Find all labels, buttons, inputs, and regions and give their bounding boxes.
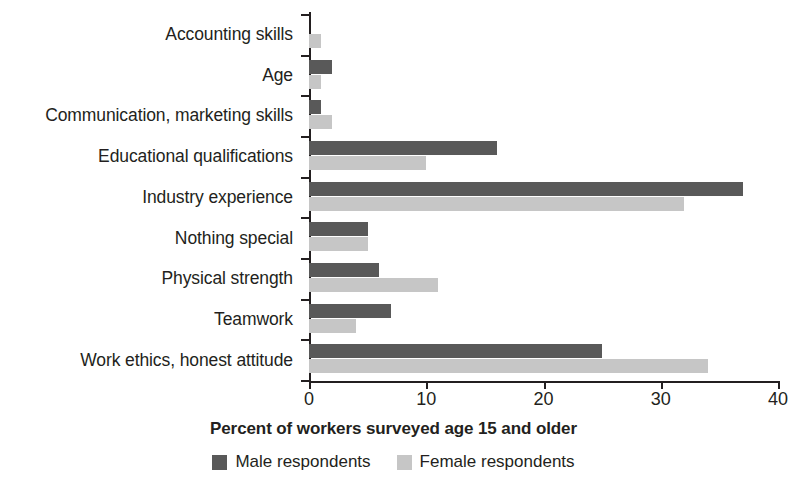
- legend-swatch-male: [212, 455, 227, 470]
- bar-female: [309, 75, 321, 89]
- bar-group: [309, 55, 779, 96]
- bar-female: [309, 319, 356, 333]
- x-axis-tick-label: 0: [304, 389, 314, 410]
- x-axis-title: Percent of workers surveyed age 15 and o…: [0, 419, 787, 439]
- bar-group: [309, 339, 779, 380]
- plot-area: Accounting skills Age Communication, mar…: [0, 0, 787, 400]
- x-axis-tick: [778, 381, 780, 389]
- bar-group: [309, 258, 779, 299]
- x-axis-tick: [309, 381, 311, 389]
- bar-male: [309, 100, 321, 114]
- x-axis-tick-label: 40: [768, 389, 788, 410]
- bar-female: [309, 278, 438, 292]
- bar-female: [309, 34, 321, 48]
- x-axis-tick: [426, 381, 428, 389]
- bar-female: [309, 115, 332, 129]
- category-label: Physical strength: [0, 258, 302, 299]
- category-label: Teamwork: [0, 299, 302, 340]
- legend: Male respondents Female respondents: [0, 452, 787, 472]
- x-axis-tick: [661, 381, 663, 389]
- bar-male: [309, 182, 743, 196]
- bar-female: [309, 197, 684, 211]
- bar-group: [309, 95, 779, 136]
- bar-group: [309, 217, 779, 258]
- legend-swatch-female: [397, 455, 412, 470]
- bar-female: [309, 156, 426, 170]
- legend-item-male: Male respondents: [212, 452, 370, 472]
- bars-container: [309, 14, 779, 380]
- bar-group: [309, 299, 779, 340]
- category-label: Accounting skills: [0, 14, 302, 55]
- legend-label-female: Female respondents: [420, 452, 575, 472]
- legend-label-male: Male respondents: [235, 452, 370, 472]
- x-axis-tick-label: 10: [416, 389, 436, 410]
- bar-male: [309, 141, 497, 155]
- category-label: Work ethics, honest attitude: [0, 339, 302, 380]
- category-label: Educational qualifications: [0, 136, 302, 177]
- bar-male: [309, 344, 602, 358]
- bar-male: [309, 263, 379, 277]
- legend-item-female: Female respondents: [397, 452, 575, 472]
- category-label: Nothing special: [0, 217, 302, 258]
- x-axis-tick: [544, 381, 546, 389]
- bar-male: [309, 60, 332, 74]
- x-axis-tick-label: 20: [533, 389, 553, 410]
- bar-male: [309, 222, 368, 236]
- category-axis-labels: Accounting skills Age Communication, mar…: [0, 14, 302, 380]
- category-label: Age: [0, 55, 302, 96]
- category-label: Industry experience: [0, 177, 302, 218]
- bar-group: [309, 136, 779, 177]
- bar-group: [309, 14, 779, 55]
- category-label: Communication, marketing skills: [0, 95, 302, 136]
- bar-male: [309, 304, 391, 318]
- bar-female: [309, 359, 708, 373]
- bar-female: [309, 237, 368, 251]
- bar-group: [309, 177, 779, 218]
- x-axis-tick-label: 30: [651, 389, 671, 410]
